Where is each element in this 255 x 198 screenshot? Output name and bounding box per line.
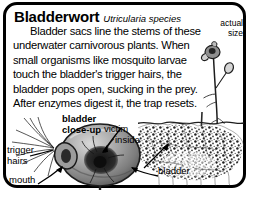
actual-size-line-1: actual	[220, 18, 243, 28]
page-title: Bladderwort	[14, 8, 99, 25]
scientific-name: Utricularia species	[103, 13, 181, 24]
label-victim-line-1: victim	[104, 123, 128, 134]
label-trigger-hairs-line-1: trigger	[7, 144, 34, 155]
label-bladder-closeup: bladder close-up	[62, 114, 101, 135]
label-bladder: bladder	[158, 166, 190, 177]
label-victim-line-2: inside	[115, 135, 140, 146]
label-mouth: mouth	[9, 175, 35, 186]
actual-size-line-2: size	[228, 28, 243, 38]
bladderwort-fact-card: BladderwortUtricularia species Bladder s…	[0, 0, 255, 198]
label-victim-inside: victim inside	[104, 124, 140, 145]
label-trigger-hairs-line-2: hairs	[7, 155, 28, 166]
label-trigger-hairs: trigger hairs	[7, 145, 34, 166]
actual-size-caption: actual size	[197, 18, 243, 38]
label-bladder-closeup-line-1: bladder	[62, 113, 96, 124]
description-paragraph: Bladder sacs line the stems of these und…	[13, 24, 207, 110]
label-bladder-closeup-line-2: close-up	[62, 124, 101, 135]
